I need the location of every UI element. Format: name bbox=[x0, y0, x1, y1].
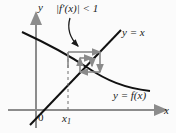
origin-label: 0 bbox=[38, 112, 44, 123]
figure-canvas bbox=[0, 0, 176, 133]
function-curve-label: y = f(x) bbox=[113, 90, 146, 101]
x1-label: x1 bbox=[62, 113, 71, 126]
x-axis-label: x bbox=[164, 105, 169, 116]
identity-line-label: y = x bbox=[122, 27, 145, 38]
function-curve bbox=[22, 32, 150, 91]
constraint-pointer-arrow bbox=[69, 18, 78, 46]
x1-label-subscript: 1 bbox=[67, 117, 71, 126]
cobweb-diagram-figure: |f′(x)| < 1 y = x y = f(x) 0 x1 x y bbox=[0, 0, 176, 133]
y-axis-label: y bbox=[38, 2, 43, 13]
constraint-label: |f′(x)| < 1 bbox=[56, 3, 98, 14]
